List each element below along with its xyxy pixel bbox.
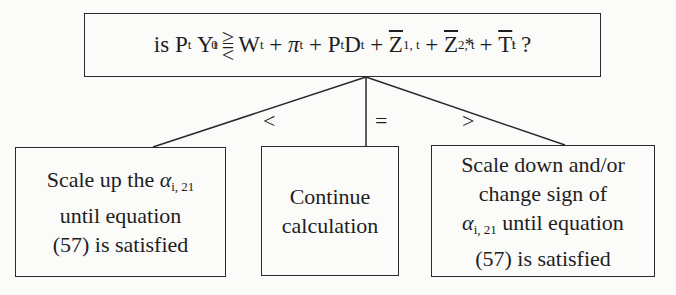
outcome-box-continue: Continue calculation <box>261 146 399 276</box>
outcome-box-scale-up: Scale up the αi, 21 until equation (57) … <box>15 147 226 277</box>
comparison-relation: >=< <box>222 32 234 59</box>
question-prefix: is <box>154 32 169 58</box>
branch-label-less: < <box>263 108 275 134</box>
decision-question-box: is Pt Yt0 >=< Wt + πt + PtDt + Z1, t + Z… <box>84 13 601 77</box>
branch-label-equal: = <box>375 108 387 134</box>
branch-label-greater: > <box>462 108 474 134</box>
branch-line-less <box>153 77 366 147</box>
outcome-box-scale-down: Scale down and/or change sign of αi, 21 … <box>431 145 655 277</box>
